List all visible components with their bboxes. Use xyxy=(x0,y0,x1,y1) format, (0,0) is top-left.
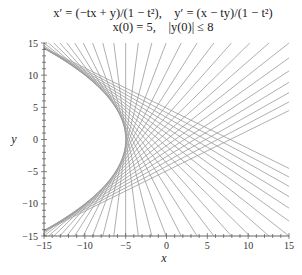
x-axis-label: x xyxy=(160,251,167,265)
solution-line xyxy=(44,48,289,169)
x-tick-label: 0 xyxy=(164,240,169,251)
solution-lines xyxy=(44,43,289,236)
solution-line xyxy=(44,48,289,177)
y-tick-label: −10 xyxy=(22,198,38,209)
x-tick-label: −15 xyxy=(36,240,52,251)
x-tick-label: −5 xyxy=(120,240,131,251)
y-tick-label: −5 xyxy=(27,166,38,177)
x-tick-label: 15 xyxy=(284,240,294,251)
x-tick-label: 5 xyxy=(205,240,210,251)
x-tick-label: 10 xyxy=(243,240,253,251)
y-tick-label: 5 xyxy=(33,102,38,113)
x-tick-label: −10 xyxy=(77,240,93,251)
y-tick-label: 10 xyxy=(28,70,38,81)
y-tick-label: −15 xyxy=(22,231,38,242)
plot-area: −15−10−5051015−15−10−5051015 x y xyxy=(0,0,302,275)
y-axis-label: y xyxy=(10,132,17,146)
solution-line xyxy=(44,102,289,231)
y-tick-label: 15 xyxy=(28,38,38,49)
y-tick-label: 0 xyxy=(33,134,38,145)
solution-line xyxy=(44,49,289,187)
